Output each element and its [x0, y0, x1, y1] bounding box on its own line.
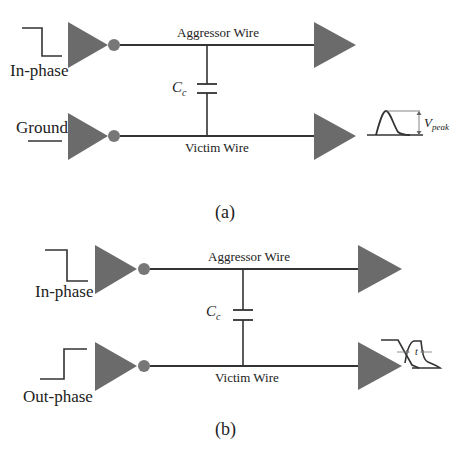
- bottom-input-label: Ground: [16, 118, 68, 137]
- victim-driver-buffer-icon: [68, 113, 108, 160]
- victim-inverter-bubble-icon: [108, 130, 120, 142]
- aggressor-driver-buffer-icon: [68, 22, 108, 68]
- crosstalk-diagram: In-phase Aggressor Wire Cc Ground Victim…: [0, 0, 457, 457]
- panel-b: In-phase Aggressor Wire Cc Out-phase Vic…: [23, 245, 440, 440]
- coupling-capacitor-label: Cc: [206, 303, 221, 322]
- top-input-label: In-phase: [35, 282, 94, 301]
- victim-wire-label: Victim Wire: [215, 370, 279, 385]
- vpeak-label: Vpeak: [424, 115, 450, 132]
- victim-receiver-buffer-icon: [314, 113, 356, 160]
- panel-b-caption: (b): [215, 419, 236, 440]
- noise-pulse-waveform-icon: [376, 111, 410, 135]
- victim-driver-buffer-icon: [95, 342, 137, 391]
- coupling-capacitor-label: Cc: [172, 79, 187, 98]
- aggressor-inverter-bubble-icon: [108, 39, 120, 51]
- vpeak-arrowhead-top-icon: [417, 111, 422, 115]
- victim-wire-label: Victim Wire: [185, 140, 249, 155]
- victim-inverter-bubble-icon: [138, 360, 150, 372]
- panel-a-caption: (a): [215, 202, 235, 223]
- aggressor-driver-buffer-icon: [95, 245, 137, 294]
- in-phase-waveform-icon: [45, 250, 88, 281]
- aggressor-wire-label: Aggressor Wire: [208, 249, 290, 264]
- aggressor-wire-label: Aggressor Wire: [177, 25, 259, 40]
- bottom-input-label: Out-phase: [23, 387, 93, 406]
- aggressor-receiver-buffer-icon: [358, 245, 402, 293]
- aggressor-inverter-bubble-icon: [138, 263, 150, 275]
- out-phase-waveform-icon: [40, 349, 87, 379]
- in-phase-waveform-icon: [22, 28, 62, 56]
- panel-a: In-phase Aggressor Wire Cc Ground Victim…: [10, 22, 450, 223]
- delayed-transition-waveform-icon: [405, 341, 440, 368]
- victim-receiver-buffer-icon: [358, 342, 402, 390]
- aggressor-receiver-buffer-icon: [314, 22, 356, 68]
- top-input-label: In-phase: [10, 61, 69, 80]
- delay-label: t: [415, 346, 418, 357]
